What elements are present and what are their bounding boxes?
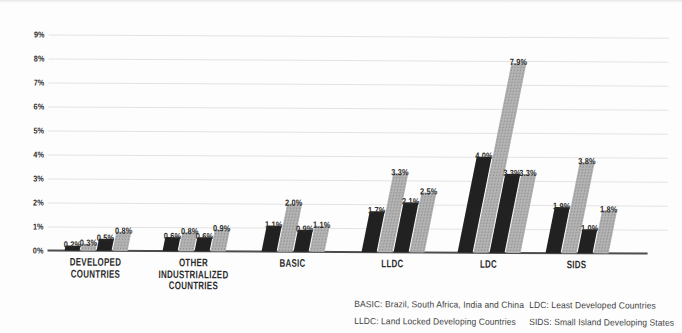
bar-value-label-anchor: 7.9% (519, 51, 540, 69)
y-tick-label: 9% (19, 29, 45, 39)
bar (409, 192, 436, 252)
bar-slot: 0.8% (178, 232, 193, 251)
y-tick-label: 6% (19, 101, 45, 111)
bar-slot: 2.0% (277, 204, 292, 252)
bar-slot: 0.9% (210, 229, 225, 251)
category-label: LDC (442, 259, 536, 271)
category-label: SIDS (530, 259, 624, 271)
bar-slot: 0.2% (64, 246, 79, 251)
bar-value-label-anchor: 2.0% (294, 192, 315, 210)
bar-value-label: 2.0% (285, 198, 303, 208)
bar-value-label: 3.3% (519, 168, 537, 178)
bar-value-label: 3.3% (391, 167, 409, 177)
bar-value-label-anchor: 3.8% (587, 150, 608, 168)
category-label: DEVELOPED COUNTRIES (49, 256, 143, 280)
bar-slot: 1.0% (577, 229, 592, 253)
bar-slot: 1.1% (261, 226, 276, 252)
bar (593, 210, 617, 253)
bar-slot: 2.5% (409, 192, 424, 252)
bar-value-label: 1.8% (600, 204, 618, 214)
bar-value-label: 0.2% (64, 240, 82, 250)
bar-slot: 0.6% (194, 237, 209, 251)
y-tick-label: 1% (18, 221, 44, 231)
bar-slot: 1.1% (309, 226, 324, 252)
bar-group-lldc: 1.7%3.3%2.1%2.5% (361, 36, 425, 252)
footnote-basic: BASIC: Brazil, South Africa, India and C… (354, 299, 524, 310)
footnote-lldc: LLDC: Land Locked Developing Countries (354, 316, 516, 327)
bar-slot: 7.9% (473, 63, 489, 253)
bar-slot: 0.8% (112, 232, 127, 251)
bar-slot: 0.5% (96, 239, 111, 251)
bar-value-label-anchor: 0.8% (124, 220, 145, 238)
bar-group-sids: 1.9%3.8%1.0%1.8% (545, 37, 609, 253)
category-label: LLDC (346, 258, 440, 270)
chart-page: 0%1%2%3%4%5%6%7%8%9%0.2%0.3%0.5%0.8%DEVE… (0, 0, 682, 333)
category-label: OTHER INDUSTRIALIZED COUNTRIES (147, 257, 241, 292)
category-label: BASIC (246, 258, 340, 270)
bar-value-label-anchor: 2.5% (429, 180, 450, 198)
bar-value-label: 1.1% (313, 220, 331, 230)
bar-slot: 3.8% (561, 162, 576, 253)
bar-value-label-anchor: 1.8% (609, 198, 630, 216)
bar-slot: 3.3% (377, 173, 392, 252)
y-tick-label: 8% (19, 53, 45, 63)
bar-slot: 1.9% (545, 207, 560, 253)
bar-value-label: 0.8% (115, 226, 133, 236)
bar-slot: 3.3% (489, 174, 504, 253)
bar-value-label: 3.8% (578, 156, 596, 166)
y-tick-label: 4% (19, 149, 45, 159)
bar-value-label-anchor: 3.3% (400, 161, 421, 179)
footnote-ldc: LDC: Least Developed Countries (529, 300, 656, 311)
bar-group-other-industrialized-countries: 0.6%0.8%0.6%0.9% (162, 35, 226, 251)
bar-chart: 0%1%2%3%4%5%6%7%8%9%0.2%0.3%0.5%0.8%DEVE… (0, 0, 682, 333)
bar-group-developed-countries: 0.2%0.3%0.5%0.8% (64, 35, 128, 251)
bar-group-basic: 1.1%2.0%0.9%1.1% (261, 36, 325, 252)
bar-slot: 0.3% (80, 244, 95, 251)
bar-value-label-anchor: 0.9% (222, 217, 243, 235)
y-tick-label: 5% (19, 125, 45, 135)
bar-slot: 3.3% (505, 174, 520, 253)
bar-value-label: 0.3% (80, 238, 98, 248)
y-tick-label: 0% (18, 245, 44, 255)
bar-slot: 4.0% (457, 157, 473, 253)
bar-value-label: 2.5% (420, 186, 438, 196)
bar-slot: 1.7% (361, 211, 376, 252)
bar-value-label-anchor: 1.1% (322, 214, 343, 232)
bar-slot: 0.6% (162, 237, 177, 251)
bar-group-ldc: 4.0%7.9%3.3%3.3% (457, 37, 521, 253)
plot-area: 0%1%2%3%4%5%6%7%8%9%0.2%0.3%0.5%0.8%DEVE… (1, 0, 682, 2)
bar-value-label: 7.9% (510, 57, 528, 67)
bar-slot: 2.1% (393, 202, 408, 252)
bar-slot: 0.9% (293, 230, 308, 252)
y-tick-label: 7% (19, 77, 45, 87)
footnote-sids: SIDS: Small Island Developing States (529, 317, 674, 328)
y-tick-label: 2% (18, 197, 44, 207)
bar-value-label: 0.9% (213, 223, 231, 233)
y-tick-label: 3% (18, 173, 44, 183)
bar (505, 174, 536, 253)
bar-slot: 1.8% (593, 210, 608, 253)
